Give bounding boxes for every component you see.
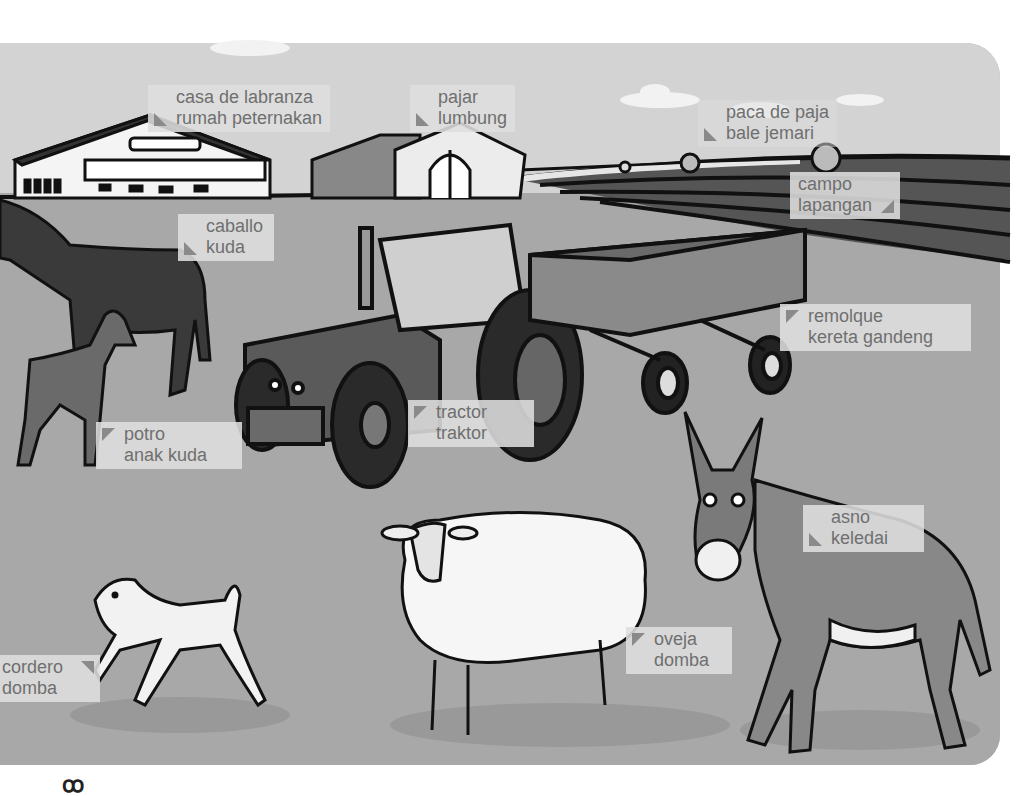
label-id: traktor: [436, 423, 526, 444]
pointer-icon: [632, 633, 645, 646]
pointer-icon: [154, 113, 167, 126]
label-es: casa de labranza: [176, 87, 322, 108]
label-id: anak kuda: [124, 445, 234, 466]
label-id: lumbung: [438, 108, 507, 129]
label-es: cordero: [2, 657, 72, 678]
label-lamb: cordero domba: [0, 655, 100, 702]
lamb-icon: [95, 579, 265, 705]
label-es: campo: [798, 174, 872, 195]
label-farmhouse: casa de labranza rumah peternakan: [148, 85, 330, 132]
shadow: [390, 703, 730, 747]
label-id: kuda: [206, 237, 266, 258]
label-es: pajar: [438, 87, 507, 108]
label-tractor: tractor traktor: [408, 400, 534, 447]
farm-scene: casa de labranza rumah peternakan pajar …: [0, 0, 1030, 796]
label-id: lapangan: [798, 195, 872, 216]
pointer-icon: [881, 200, 894, 213]
label-foal: potro anak kuda: [96, 422, 242, 469]
sheep-icon: [382, 513, 645, 736]
label-es: oveja: [654, 629, 724, 650]
label-id: domba: [654, 650, 724, 671]
pointer-icon: [416, 113, 429, 126]
pointer-icon: [704, 128, 717, 141]
pointer-icon: [184, 242, 197, 255]
pointer-icon: [102, 428, 115, 441]
decorative-glyph: ꝏ: [62, 772, 82, 796]
pointer-icon: [786, 310, 799, 323]
label-id: rumah peternakan: [176, 108, 322, 129]
pointer-icon: [809, 533, 822, 546]
label-barn: pajar lumbung: [410, 85, 515, 132]
pointer-icon: [414, 406, 427, 419]
label-es: potro: [124, 424, 234, 445]
label-field: campo lapangan: [790, 172, 900, 219]
label-hay-bale: paca de paja bale jemari: [698, 100, 837, 147]
label-trailer: remolque kereta gandeng: [780, 304, 971, 351]
label-es: caballo: [206, 216, 266, 237]
label-es: remolque: [808, 306, 963, 327]
barn-icon: [312, 123, 525, 198]
label-id: bale jemari: [726, 123, 829, 144]
label-id: kereta gandeng: [808, 327, 963, 348]
label-es: tractor: [436, 402, 526, 423]
label-donkey: asno keledai: [803, 505, 924, 552]
label-sheep: oveja domba: [626, 627, 732, 674]
donkey-icon: [685, 412, 990, 752]
pointer-icon: [81, 661, 94, 674]
label-horse: caballo kuda: [178, 214, 274, 261]
label-es: paca de paja: [726, 102, 829, 123]
label-es: asno: [831, 507, 916, 528]
label-id: domba: [2, 678, 72, 699]
label-id: keledai: [831, 528, 916, 549]
